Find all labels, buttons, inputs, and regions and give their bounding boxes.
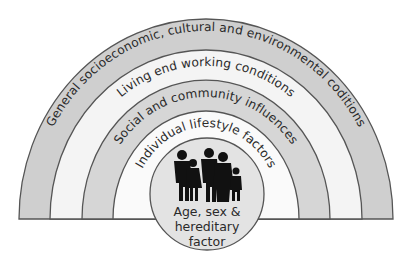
core-label-line3: factor [189,234,226,249]
core-label-line1: Age, sex & [173,204,240,219]
core-label-line2: hereditary [175,219,240,234]
health-determinants-diagram: General socioeconomic, cultural and envi… [0,0,409,271]
